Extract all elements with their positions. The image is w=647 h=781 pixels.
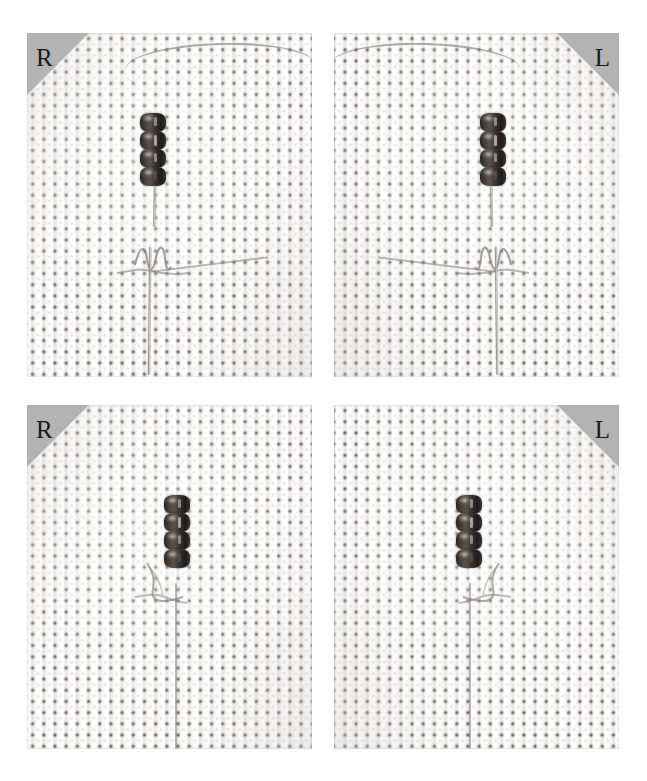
bead bbox=[480, 113, 506, 132]
bead bbox=[164, 549, 190, 568]
bead-stack-upper bbox=[140, 113, 166, 185]
bead bbox=[480, 131, 506, 150]
bead-stack-upper bbox=[480, 113, 506, 185]
aida-fabric-texture bbox=[27, 405, 312, 749]
panel-bottom-right: L bbox=[334, 405, 619, 749]
bead bbox=[456, 531, 482, 550]
thread-tail-down bbox=[469, 583, 471, 749]
bead bbox=[140, 113, 166, 132]
bead bbox=[140, 149, 166, 168]
bead bbox=[164, 531, 190, 550]
bead bbox=[456, 495, 482, 514]
aida-fabric-texture bbox=[334, 405, 619, 749]
bead bbox=[164, 495, 190, 514]
aida-fabric-texture bbox=[27, 33, 312, 377]
panel-top-left: R bbox=[27, 33, 312, 377]
panel-bottom-left: R bbox=[27, 405, 312, 749]
aida-fabric-texture bbox=[334, 33, 619, 377]
bead bbox=[164, 513, 190, 532]
bead bbox=[480, 167, 506, 186]
bead-stack-flat bbox=[164, 495, 190, 567]
bead bbox=[456, 549, 482, 568]
figure-panel-grid: R L bbox=[0, 0, 647, 781]
bead-stack-flat bbox=[456, 495, 482, 567]
bead bbox=[140, 131, 166, 150]
bead bbox=[456, 513, 482, 532]
bead bbox=[140, 167, 166, 186]
bead bbox=[480, 149, 506, 168]
panel-top-right: L bbox=[334, 33, 619, 377]
